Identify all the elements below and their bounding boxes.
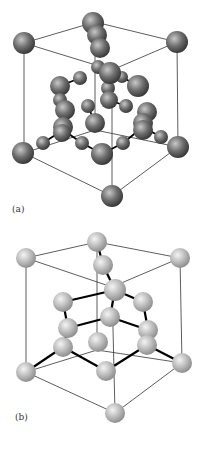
- atom-sphere: [105, 403, 125, 423]
- atom-sphere: [75, 136, 89, 150]
- atom-sphere: [58, 318, 78, 338]
- cube-edge: [177, 42, 178, 147]
- atom-sphere: [87, 232, 107, 252]
- atom-sphere: [104, 279, 126, 301]
- cube-edge: [97, 242, 180, 258]
- atom-sphere: [16, 362, 36, 382]
- cube-edge: [95, 22, 177, 42]
- atom-sphere: [170, 248, 190, 268]
- atom-sphere: [96, 361, 116, 381]
- atom-sphere: [53, 124, 71, 142]
- atom-sphere: [137, 335, 157, 355]
- atom-sphere: [166, 31, 188, 53]
- atom-sphere: [116, 136, 130, 150]
- atom-sphere: [90, 38, 110, 58]
- atom-sphere: [99, 62, 121, 84]
- cube-edge: [180, 258, 182, 363]
- atom-sphere: [93, 255, 113, 275]
- atom-sphere: [101, 185, 123, 207]
- atom-sphere: [53, 292, 73, 312]
- atom-sphere: [167, 136, 189, 158]
- atom-sphere: [12, 142, 34, 164]
- atom-sphere: [73, 71, 87, 85]
- panel-label-b: (b): [15, 412, 28, 422]
- atom-sphere: [154, 130, 168, 144]
- atom-sphere: [13, 32, 35, 54]
- atom-sphere: [172, 353, 192, 373]
- atom-sphere: [36, 136, 50, 150]
- atom-sphere: [91, 143, 113, 165]
- panel-b-diamond-lattice: (b): [0, 225, 203, 451]
- atom-sphere: [100, 91, 118, 109]
- crystal-structure-b: [0, 225, 203, 451]
- cube-edge: [26, 242, 97, 258]
- atom-sphere: [88, 332, 108, 352]
- atom-sphere: [133, 292, 153, 312]
- atom-sphere: [16, 248, 36, 268]
- panel-a-diamond-lattice: (a): [0, 0, 203, 225]
- cube-edge: [112, 147, 178, 196]
- atom-sphere: [119, 99, 133, 113]
- atom-sphere: [55, 100, 75, 120]
- atom-sphere: [133, 120, 153, 140]
- atom-sphere: [53, 337, 73, 357]
- panel-label-a: (a): [12, 204, 24, 214]
- atom-sphere: [85, 113, 105, 133]
- crystal-structure-a: [0, 0, 203, 225]
- atom-sphere: [100, 307, 120, 327]
- atom-sphere: [81, 99, 95, 113]
- atom-sphere: [127, 75, 149, 97]
- cube-edge: [115, 363, 182, 413]
